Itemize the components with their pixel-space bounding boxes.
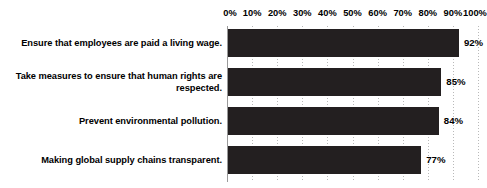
category-axis-labels: Ensure that employees are paid a living … xyxy=(0,26,227,182)
bar-value-label: 85% xyxy=(446,68,465,96)
bar xyxy=(228,146,421,174)
bar-value-label: 84% xyxy=(444,107,463,135)
category-label: Take measures to ensure that human right… xyxy=(0,68,222,96)
x-axis-tick-labels: 0%10%20%30%40%50%60%70%80%90%100% xyxy=(227,8,486,24)
bar-value-label: 77% xyxy=(426,146,445,174)
bar-value-label: 92% xyxy=(464,29,483,57)
x-axis-tick-label: 80% xyxy=(418,8,437,18)
category-label: Ensure that employees are paid a living … xyxy=(0,29,222,57)
x-axis-tick-label: 50% xyxy=(343,8,362,18)
x-axis-tick-label: 10% xyxy=(243,8,262,18)
category-label-text: Ensure that employees are paid a living … xyxy=(21,37,222,50)
x-axis-tick-label: 30% xyxy=(293,8,312,18)
category-label-text: Take measures to ensure that human right… xyxy=(0,70,222,95)
x-axis-tick-label: 0% xyxy=(223,8,236,18)
category-label-text: Prevent environmental pollution. xyxy=(79,115,222,128)
category-label: Prevent environmental pollution. xyxy=(0,107,222,135)
x-axis-tick-label: 100% xyxy=(463,8,487,18)
x-axis-tick-label: 40% xyxy=(318,8,337,18)
bar xyxy=(228,107,439,135)
x-axis-tick-label: 20% xyxy=(268,8,287,18)
x-axis-tick-label: 90% xyxy=(444,8,463,18)
category-label-text: Making global supply chains transparent. xyxy=(41,154,222,167)
x-axis-tick-label: 60% xyxy=(368,8,387,18)
bar xyxy=(228,68,441,96)
category-label: Making global supply chains transparent. xyxy=(0,146,222,174)
bar xyxy=(228,29,459,57)
plot-area: 92%85%84%77% xyxy=(227,26,479,182)
x-axis-tick-label: 70% xyxy=(393,8,412,18)
